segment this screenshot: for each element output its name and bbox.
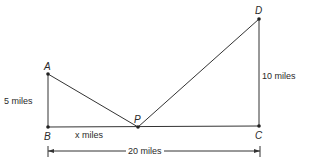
point-c xyxy=(257,124,261,128)
label-point-a: A xyxy=(43,61,51,72)
point-p xyxy=(136,125,140,129)
label-point-p: P xyxy=(134,114,141,125)
label-point-c: C xyxy=(255,130,263,141)
point-b xyxy=(46,125,50,129)
point-a xyxy=(46,72,50,76)
label-ab-length: 5 miles xyxy=(4,96,33,106)
label-cd-length: 10 miles xyxy=(262,71,296,81)
geometry-diagram: A B P C D 5 miles x miles 10 miles 20 mi… xyxy=(0,0,309,165)
segment-pd xyxy=(138,19,259,127)
label-bc-length: 20 miles xyxy=(128,146,162,156)
label-point-b: B xyxy=(44,131,51,142)
point-d xyxy=(257,17,261,21)
label-bp-length: x miles xyxy=(75,130,104,140)
segment-ap xyxy=(48,74,138,127)
segment-bc xyxy=(48,126,259,127)
label-point-d: D xyxy=(255,5,262,16)
